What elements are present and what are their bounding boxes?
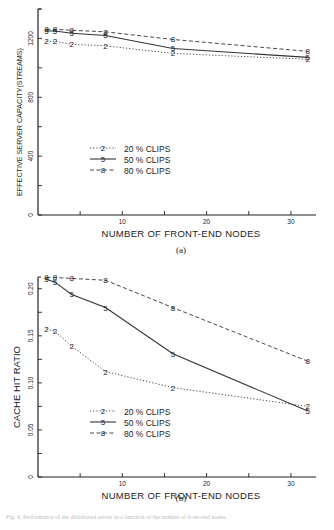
legend: 220 % CLIPS550 % CLIPS880 % CLIPS xyxy=(90,407,171,439)
y-tick-label: 0.10 xyxy=(27,376,34,389)
data-marker: 5 xyxy=(171,350,176,359)
y-tick-label: 800 xyxy=(27,91,34,102)
x-axis-label: NUMBER OF FRONT-END NODES xyxy=(102,228,261,239)
x-tick-label: 30 xyxy=(287,218,295,225)
data-marker: 2 xyxy=(44,37,49,46)
data-marker: 5 xyxy=(103,304,108,313)
data-marker: 2 xyxy=(44,325,49,334)
x-tick-label: 10 xyxy=(119,218,127,225)
series-2: 222222 xyxy=(44,37,310,64)
legend-label: 50 % CLIPS xyxy=(124,155,171,165)
legend-label: 20 % CLIPS xyxy=(124,144,171,154)
series-2: 222222 xyxy=(44,325,310,411)
x-tick-label: 30 xyxy=(287,480,295,487)
legend-marker: 2 xyxy=(101,407,106,416)
legend-marker: 8 xyxy=(101,429,106,438)
panel-caption: (a) xyxy=(176,245,186,255)
legend-marker: 5 xyxy=(101,155,106,164)
panel-caption: (b) xyxy=(176,493,187,503)
y-tick-label: 400 xyxy=(27,150,34,161)
legend-marker: 5 xyxy=(101,418,106,427)
series-5: 555555 xyxy=(44,27,310,62)
legend-label: 80 % CLIPS xyxy=(124,166,171,176)
y-axis-label: EFFECTIVE SERVER CAPACITY(STREAMS) xyxy=(15,48,24,196)
data-marker: 2 xyxy=(69,40,74,49)
x-tick-label: 20 xyxy=(203,218,211,225)
x-tick-label: 10 xyxy=(119,480,127,487)
y-tick-label: 0 xyxy=(27,475,34,479)
data-marker: 2 xyxy=(69,342,74,351)
y-tick-label: 0 xyxy=(27,213,34,217)
plot-area: 10203000.050.100.150.20NUMBER OF FRONT-E… xyxy=(11,273,316,503)
legend-label: 50 % CLIPS xyxy=(124,418,171,428)
data-marker: 8 xyxy=(69,26,74,35)
legend: 220 % CLIPS550 % CLIPS880 % CLIPS xyxy=(90,144,171,176)
data-marker: 8 xyxy=(306,47,311,56)
legend-marker: 2 xyxy=(101,144,106,153)
plot-area: 10203004008001200NUMBER OF FRONT-END NOD… xyxy=(15,9,316,255)
chart-b-plot: 10203000.050.100.150.20NUMBER OF FRONT-E… xyxy=(0,265,334,505)
data-marker: 2 xyxy=(53,37,58,46)
y-tick-label: 1200 xyxy=(27,31,34,46)
x-tick-label: 20 xyxy=(203,480,211,487)
data-marker: 5 xyxy=(306,407,311,416)
data-marker: 8 xyxy=(44,273,49,282)
y-tick-label: 0.15 xyxy=(27,329,34,342)
data-marker: 5 xyxy=(171,44,176,53)
chart-a-plot: 10203004008001200NUMBER OF FRONT-END NOD… xyxy=(0,0,334,262)
data-marker: 8 xyxy=(171,35,176,44)
legend-label: 80 % CLIPS xyxy=(124,429,171,439)
data-marker: 2 xyxy=(103,368,108,377)
data-marker: 8 xyxy=(44,25,49,34)
data-marker: 8 xyxy=(306,357,311,366)
data-marker: 5 xyxy=(69,290,74,299)
data-marker: 8 xyxy=(103,28,108,37)
series-8: 888888 xyxy=(44,25,310,56)
y-axis-label: CACHE HIT RATIO xyxy=(11,346,22,428)
series-8: 888888 xyxy=(44,273,310,366)
data-marker: 8 xyxy=(171,304,176,313)
data-marker: 8 xyxy=(103,276,108,285)
data-marker: 2 xyxy=(103,42,108,51)
data-marker: 8 xyxy=(69,274,74,283)
chart-b-cache-hit-ratio: 10203000.050.100.150.20NUMBER OF FRONT-E… xyxy=(0,265,334,505)
legend-label: 20 % CLIPS xyxy=(124,407,171,417)
figure-footer-caption: Fig. 6. Performance of the distributed s… xyxy=(6,514,227,520)
data-marker: 8 xyxy=(53,25,58,34)
chart-a-server-capacity: 10203004008001200NUMBER OF FRONT-END NOD… xyxy=(0,0,334,262)
y-tick-label: 0.05 xyxy=(27,423,34,436)
y-tick-label: 0.20 xyxy=(27,282,34,295)
legend-marker: 8 xyxy=(101,166,106,175)
data-marker: 2 xyxy=(53,327,58,336)
data-marker: 8 xyxy=(53,273,58,282)
series-5: 555555 xyxy=(44,275,310,416)
data-marker: 2 xyxy=(171,384,176,393)
